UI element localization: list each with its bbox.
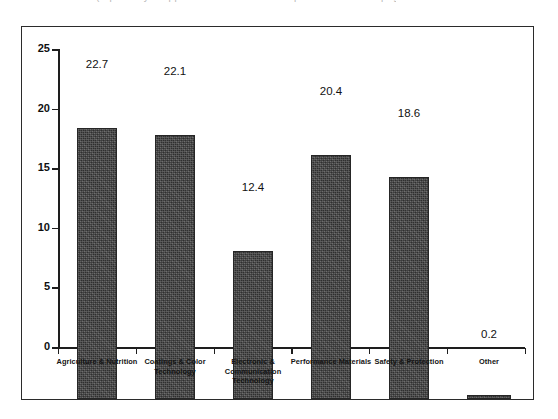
bar-column (77, 100, 117, 399)
y-axis-tick (52, 287, 58, 289)
x-axis-tick (447, 348, 448, 354)
bar-column (467, 100, 511, 399)
bar-column (389, 100, 429, 399)
bar-value-label: 0.2 (449, 328, 529, 340)
bar-value-label: 12.4 (213, 181, 293, 193)
y-axis-tick (52, 168, 58, 170)
x-axis-tick (214, 348, 215, 354)
bar[interactable] (467, 395, 511, 399)
y-axis-tick-label: 5 (22, 280, 50, 292)
x-axis-tick (136, 348, 137, 354)
cut-off-page-header: (a partially cropped line of text at the… (96, 0, 396, 3)
x-axis-tick (369, 348, 370, 354)
y-axis-tick (52, 49, 58, 51)
bar-value-label: 18.6 (369, 107, 449, 119)
y-axis-tick (52, 109, 58, 111)
x-axis-tick (525, 348, 526, 354)
x-axis-category-line: Communication (207, 367, 299, 377)
x-axis-category-line: Other (449, 357, 529, 367)
bar-column (155, 100, 195, 399)
x-axis-category-label: Safety & Protection (361, 357, 457, 367)
x-axis-category-label: Other (449, 357, 529, 367)
bar-column (311, 100, 351, 399)
bar-chart-plot-area: 25 20 15 10 5 0 2 (22, 27, 533, 399)
chart-frame: 25 20 15 10 5 0 2 (21, 26, 534, 400)
y-axis-tick-label: 20 (22, 102, 50, 114)
y-axis-line (58, 49, 60, 348)
y-axis-tick-label: 15 (22, 161, 50, 173)
bar-column (233, 100, 273, 399)
y-axis-tick-label: 25 (22, 42, 50, 54)
y-axis-tick (52, 228, 58, 230)
bar-value-label: 22.1 (135, 65, 215, 77)
x-axis-tick (291, 348, 292, 354)
bar-value-label: 20.4 (291, 85, 371, 97)
y-axis-tick-label: 0 (22, 340, 50, 352)
x-axis-category-line: Safety & Protection (361, 357, 457, 367)
y-axis-tick-label: 10 (22, 221, 50, 233)
bar-value-label: 22.7 (57, 58, 137, 70)
x-axis-category-line: Technology (207, 376, 299, 386)
x-axis-tick (58, 348, 59, 354)
